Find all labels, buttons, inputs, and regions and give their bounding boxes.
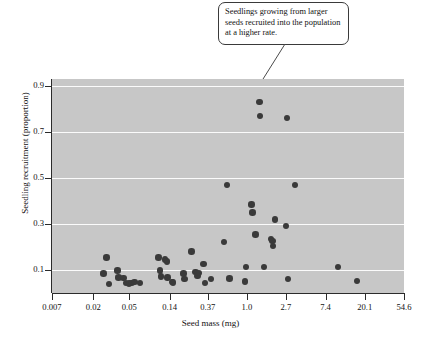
x-tick-mark [52,294,53,300]
data-point [285,276,291,282]
x-tick-label: 0.02 [73,302,113,312]
data-point [164,258,170,264]
x-tick-mark [365,294,366,300]
x-tick-label: 20.1 [345,302,385,312]
y-tick-mark [45,132,51,133]
y-tick-mark [45,224,51,225]
data-point [202,280,208,286]
annotation-callout: Seedlings growing from larger seeds recr… [218,2,349,45]
x-tick-mark [326,294,327,300]
data-point [243,264,249,270]
data-point [257,113,263,119]
y-axis-line [51,79,52,293]
y-tick-mark [45,270,51,271]
x-tick-label: 0.14 [150,302,190,312]
data-point [226,275,232,281]
x-tick-mark [93,294,94,300]
y-tick-mark [45,86,51,87]
plot-area [52,79,404,293]
data-point [252,231,258,237]
x-tick-mark [208,294,209,300]
data-point [100,270,106,276]
x-tick-label: 7.4 [306,302,346,312]
data-point [224,182,230,188]
x-tick-label: 54.6 [384,302,421,312]
data-point [261,264,267,270]
data-point [208,276,214,282]
data-point [248,201,254,207]
data-point [158,273,164,279]
data-point [256,99,262,105]
y-tick-label: 0.1 [18,265,44,274]
x-axis-line [52,293,405,294]
data-point [292,182,298,188]
data-point [200,261,206,267]
x-tick-label: 0.007 [32,302,72,312]
data-point [103,254,109,260]
data-point [114,267,120,273]
x-tick-mark [170,294,171,300]
data-point [335,264,341,270]
data-point [106,281,112,287]
x-tick-label: 0.37 [188,302,228,312]
scatter-plot-figure: Seedlings growing from larger seeds recr… [0,0,421,339]
data-point [354,278,360,284]
data-point [155,254,161,260]
data-point [284,115,290,121]
data-point [137,280,143,286]
x-tick-mark [404,294,405,300]
y-axis-title: Seedling recruitment (proportion) [20,46,30,260]
data-point [196,270,202,276]
x-tick-mark [286,294,287,300]
data-point [242,278,248,284]
data-points [52,79,404,293]
x-tick-label: 0.05 [109,302,149,312]
x-axis-title: Seed mass (mg) [0,318,421,328]
data-point [181,276,187,282]
x-tick-mark [129,294,130,300]
x-tick-mark [247,294,248,300]
data-point [249,209,255,215]
x-tick-label: 2.7 [266,302,306,312]
y-tick-mark [45,178,51,179]
data-point [270,243,276,249]
data-point [188,248,194,254]
data-point [283,223,289,229]
data-point [221,239,227,245]
data-point [272,216,278,222]
annotation-callout-text: Seedlings growing from larger seeds recr… [225,7,342,39]
x-tick-label: 1.0 [227,302,267,312]
data-point [170,279,176,285]
